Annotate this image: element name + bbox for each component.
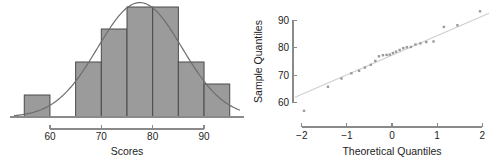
histogram-svg: 60708090 Scores [0,0,249,168]
qq-data-point [382,54,384,56]
qqplot-x-axis-ticks: −2−1012 [296,123,485,141]
qq-data-point [456,24,458,26]
qq-data-point [432,40,434,42]
qq-data-point [303,110,305,112]
qq-data-point [378,55,380,57]
histogram-x-tick-label: 70 [96,131,108,142]
figure-container: 60708090 Scores 60708090 −2−1012 Theoret… [0,0,498,168]
qq-data-point [419,42,421,44]
histogram-bar [178,62,204,117]
histogram-x-tick-label: 90 [198,131,210,142]
qq-data-point [443,26,445,28]
histogram-x-axis-title: Scores [111,145,144,157]
qq-data-point [385,54,387,56]
qqplot-svg: 60708090 −2−1012 Theoretical Quantiles S… [249,0,498,168]
histogram-x-axis: 60708090 [44,125,210,142]
qq-data-point [398,49,400,51]
qqplot-x-tick-label: −1 [341,130,353,141]
qqplot-x-tick-label: 1 [434,130,440,141]
qq-data-point [479,10,481,12]
histogram-bar [101,29,127,117]
qq-points [303,10,481,112]
qq-reference-line [295,13,489,97]
qqplot-y-axis-title: Sample Quantiles [252,20,264,103]
qq-data-point [395,50,397,52]
qqplot-y-tick-label: 80 [278,42,290,53]
qqplot-y-tick-label: 70 [278,70,290,81]
qq-data-point [402,47,404,49]
histogram-bar [76,62,102,117]
qq-data-point [392,52,394,54]
qqplot-x-tick-label: 0 [389,130,395,141]
qq-data-point [410,46,412,48]
qq-data-point [414,43,416,45]
qq-data-point [364,66,366,68]
qqplot-x-tick-label: 2 [479,130,485,141]
qqplot-x-axis-title: Theoretical Quantiles [342,145,441,157]
qq-data-point [358,70,360,72]
qqplot-y-axis-ticks: 60708090 [278,15,297,108]
histogram-bar [153,7,179,117]
qq-data-point [370,64,372,66]
qq-data-point [406,46,408,48]
histogram-panel: 60708090 Scores [0,0,249,168]
histogram-bars [24,7,229,117]
qq-data-point [350,72,352,74]
qq-data-point [389,53,391,55]
qq-data-point [425,41,427,43]
qqplot-y-tick-label: 90 [278,15,290,26]
qq-data-point [340,77,342,79]
qqplot-x-tick-label: −2 [296,130,308,141]
qqplot-panel: 60708090 −2−1012 Theoretical Quantiles S… [249,0,498,168]
histogram-bar [127,7,153,117]
histogram-x-tick-label: 60 [44,131,56,142]
qq-data-point [374,60,376,62]
qq-data-point [327,86,329,88]
histogram-bar [204,84,230,117]
histogram-x-tick-label: 80 [147,131,159,142]
qqplot-y-tick-label: 60 [278,97,290,108]
